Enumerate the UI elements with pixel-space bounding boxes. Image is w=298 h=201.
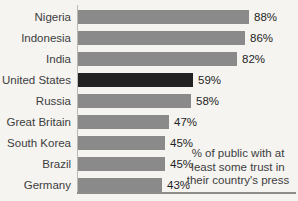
value-label: 82% (242, 53, 265, 65)
chart-row: United States59% (0, 69, 298, 90)
bar-track: 86% (73, 27, 298, 48)
bar-track: 59% (73, 69, 298, 90)
value-label: 88% (254, 11, 277, 23)
category-label: Germany (0, 179, 73, 191)
category-label: United States (0, 74, 73, 86)
bar-track: 88% (73, 6, 298, 27)
bar-track: 58% (73, 90, 298, 111)
chart-annotation: % of public with at least some trust in … (181, 147, 295, 188)
chart-row: Indonesia86% (0, 27, 298, 48)
bar (78, 115, 169, 129)
bar (78, 31, 245, 45)
value-label: 59% (198, 74, 221, 86)
chart-row: Great Britain47% (0, 111, 298, 132)
bar (78, 157, 165, 171)
chart-row: Russia58% (0, 90, 298, 111)
bar (78, 10, 249, 24)
x-axis-baseline (77, 192, 296, 194)
bar (78, 178, 162, 192)
chart-row: Nigeria88% (0, 6, 298, 27)
category-label: Russia (0, 95, 73, 107)
value-label: 47% (174, 116, 197, 128)
value-label: 86% (250, 32, 273, 44)
category-label: Brazil (0, 158, 73, 170)
category-label: Nigeria (0, 11, 73, 23)
bar-track: 82% (73, 48, 298, 69)
category-label: South Korea (0, 137, 73, 149)
category-label: India (0, 53, 73, 65)
bar-track: 47% (73, 111, 298, 132)
trust-in-press-bar-chart: Nigeria88%Indonesia86%India82%United Sta… (0, 0, 298, 201)
category-label: Great Britain (0, 116, 73, 128)
chart-row: India82% (0, 48, 298, 69)
bar-highlighted (78, 73, 193, 87)
bar (78, 136, 165, 150)
category-label: Indonesia (0, 32, 73, 44)
value-label: 58% (196, 95, 219, 107)
bar (78, 52, 237, 66)
bar (78, 94, 191, 108)
